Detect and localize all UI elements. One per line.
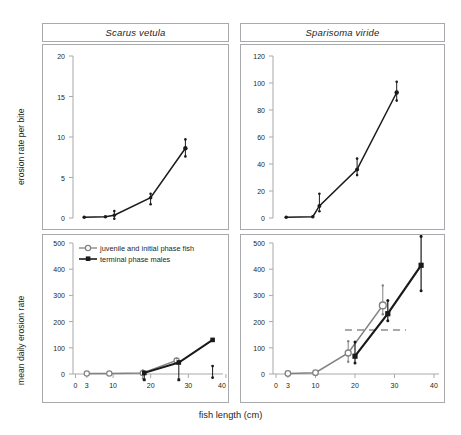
svg-text:15: 15 <box>57 94 65 101</box>
xlabel-shared: fish length (cm) <box>0 410 461 420</box>
svg-text:200: 200 <box>53 319 65 326</box>
x-ticks: 0 3 10 20 30 40 <box>74 374 226 389</box>
svg-text:10: 10 <box>109 382 117 389</box>
svg-text:20: 20 <box>57 53 65 60</box>
svg-text:10: 10 <box>312 382 320 389</box>
ylabel-text: mean daily erosion rate <box>16 296 26 385</box>
svg-text:200: 200 <box>253 319 265 326</box>
legend-marker-juvenile <box>85 245 90 250</box>
svg-text:40: 40 <box>257 161 265 168</box>
svg-text:300: 300 <box>53 292 65 299</box>
series-line-terminal <box>286 93 397 218</box>
svg-text:5: 5 <box>61 175 65 182</box>
y-ticks: 120 100 80 60 40 20 0 <box>253 53 273 222</box>
xlabel-text: fish length (cm) <box>199 410 263 420</box>
svg-text:400: 400 <box>53 266 65 273</box>
series-markers-terminal <box>82 138 187 220</box>
svg-text:10: 10 <box>57 134 65 141</box>
chart-svg-top-left: 20 15 10 5 0 <box>43 45 230 231</box>
svg-text:30: 30 <box>391 382 399 389</box>
svg-text:300: 300 <box>253 292 265 299</box>
svg-text:40: 40 <box>218 382 226 389</box>
ylabel-top-left: erosion rate per bite <box>16 109 26 185</box>
svg-text:500: 500 <box>53 240 65 247</box>
ylabel-bottom-left: mean daily erosion rate <box>16 296 26 385</box>
svg-text:0: 0 <box>74 382 78 389</box>
series-markers-juvenile <box>84 357 179 379</box>
svg-text:20: 20 <box>257 188 265 195</box>
svg-text:40: 40 <box>430 382 438 389</box>
svg-text:80: 80 <box>257 107 265 114</box>
svg-text:400: 400 <box>253 266 265 273</box>
svg-text:120: 120 <box>253 53 265 60</box>
error-bars <box>319 82 396 212</box>
y-ticks: 500 400 300 200 100 0 <box>53 240 73 378</box>
figure-root: Scarus vetula erosion rate per bite 20 1… <box>0 0 461 435</box>
svg-text:100: 100 <box>253 80 265 87</box>
series-line-terminal <box>84 148 185 217</box>
svg-text:0: 0 <box>261 371 265 378</box>
svg-text:3: 3 <box>286 382 290 389</box>
svg-text:3: 3 <box>85 382 89 389</box>
chart-svg-top-right: 120 100 80 60 40 20 0 <box>241 45 446 231</box>
svg-text:0: 0 <box>274 382 278 389</box>
ylabel-text: erosion rate per bite <box>16 109 26 185</box>
panel-title-top-right: Sparisoma viride <box>240 23 445 42</box>
panel-title-text: Sparisoma viride <box>306 27 380 38</box>
series-markers-terminal <box>284 80 399 219</box>
panel-title-top-left: Scarus vetula <box>42 23 229 42</box>
plot-top-left: 20 15 10 5 0 <box>42 44 229 230</box>
svg-text:0: 0 <box>61 371 65 378</box>
plot-bottom-left: 500 400 300 200 100 0 0 3 10 20 30 <box>42 234 229 403</box>
chart-svg-bottom-left: 500 400 300 200 100 0 0 3 10 20 30 <box>43 235 230 404</box>
svg-text:0: 0 <box>261 215 265 222</box>
panel-title-text: Scarus vetula <box>105 27 165 38</box>
svg-text:0: 0 <box>61 215 65 222</box>
svg-text:20: 20 <box>351 382 359 389</box>
svg-text:30: 30 <box>184 382 192 389</box>
legend-marker-terminal <box>86 256 91 261</box>
legend-label-juvenile: juvenile and initial phase fish <box>99 244 194 253</box>
chart-svg-bottom-right: 500 400 300 200 100 0 0 3 10 20 30 40 <box>241 235 446 404</box>
legend[interactable]: juvenile and initial phase fish terminal… <box>79 244 194 264</box>
svg-text:500: 500 <box>253 240 265 247</box>
svg-text:100: 100 <box>53 345 65 352</box>
error-bars-juvenile <box>348 285 383 361</box>
svg-text:60: 60 <box>257 134 265 141</box>
y-ticks: 20 15 10 5 0 <box>57 53 73 222</box>
svg-text:20: 20 <box>147 382 155 389</box>
y-ticks: 500 400 300 200 100 0 <box>253 240 273 378</box>
plot-bottom-right: 500 400 300 200 100 0 0 3 10 20 30 40 <box>240 234 445 403</box>
x-ticks: 0 3 10 20 30 40 <box>274 374 438 389</box>
error-bars <box>114 139 185 218</box>
svg-text:100: 100 <box>253 345 265 352</box>
plot-top-right: 120 100 80 60 40 20 0 <box>240 44 445 230</box>
legend-label-terminal: terminal phase males <box>100 255 171 264</box>
